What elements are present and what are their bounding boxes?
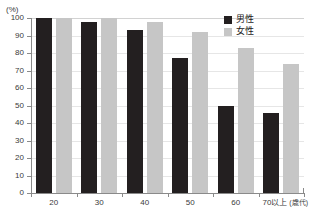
bar-chart: (%) 0102030405060708090100 203040506070以… <box>0 0 313 220</box>
x-tick-mark <box>31 193 32 197</box>
y-axis-label: 80 <box>0 49 24 57</box>
legend-item-female: 女性 <box>224 27 254 36</box>
bar-女性-30 <box>101 18 117 193</box>
y-axis-label: 100 <box>0 14 24 22</box>
x-tick-mark <box>122 193 123 197</box>
bar-男性-30 <box>81 22 97 194</box>
y-axis-label: 40 <box>0 119 24 127</box>
y-axis-label: 30 <box>0 137 24 145</box>
bars-container <box>31 18 304 193</box>
y-axis-label: 10 <box>0 172 24 180</box>
bar-女性-20 <box>56 18 72 193</box>
y-axis-label: 90 <box>0 32 24 40</box>
x-axis-label: 70以上 (歳代) <box>255 198 313 207</box>
bar-男性-50 <box>172 58 188 193</box>
x-tick-mark <box>259 193 260 197</box>
legend-swatch-male-icon <box>224 16 232 24</box>
bar-男性-70以上 <box>263 113 279 194</box>
bar-女性-40 <box>147 22 163 194</box>
y-axis-label: 60 <box>0 84 24 92</box>
x-tick-mark <box>77 193 78 197</box>
y-axis-label: 0 <box>0 189 24 197</box>
legend-label-female: 女性 <box>236 27 254 36</box>
y-axis-label: 70 <box>0 67 24 75</box>
x-tick-mark <box>168 193 169 197</box>
legend-item-male: 男性 <box>224 15 254 24</box>
bar-男性-20 <box>36 18 52 193</box>
bar-女性-60 <box>238 48 254 193</box>
legend-swatch-female-icon <box>224 28 232 36</box>
x-tick-mark <box>304 193 305 197</box>
legend-label-male: 男性 <box>236 15 254 24</box>
legend: 男性 女性 <box>224 15 254 36</box>
bar-女性-70以上 <box>283 64 299 194</box>
bar-女性-50 <box>192 32 208 193</box>
bar-男性-40 <box>127 30 143 193</box>
x-tick-mark <box>213 193 214 197</box>
y-axis-label: 50 <box>0 102 24 110</box>
y-axis-label: 20 <box>0 154 24 162</box>
bar-男性-60 <box>218 106 234 194</box>
